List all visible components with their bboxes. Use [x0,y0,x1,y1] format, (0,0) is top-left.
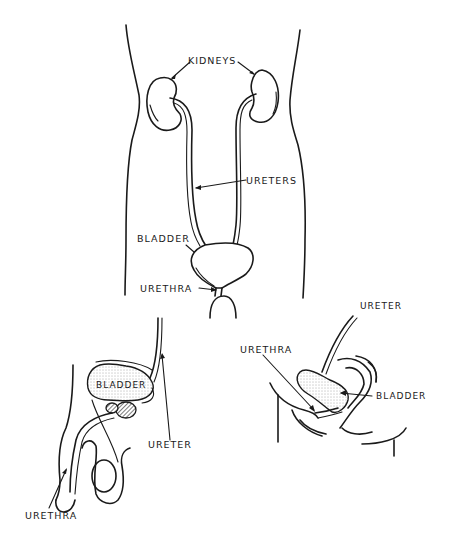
male-ureter-leader [162,355,170,440]
bladder-leader [186,245,194,252]
ureters-label: URETERS [246,176,297,186]
female-ureter [322,316,353,372]
female-bladder [297,370,348,412]
male-scrotum [82,441,130,503]
female-urethra-label: URETHRA [240,345,292,355]
right-kidney [250,70,279,122]
front-urethra-label: URETHRA [140,284,192,294]
torso-right-outline [290,30,305,298]
female-bladder-label: BLADDER [376,392,426,401]
male-gland [106,403,118,413]
front-bladder-label: BLADDER [137,234,190,244]
male-prostate [116,402,136,418]
female-side-view-panel [263,316,406,456]
male-ureter-label: URETER [148,440,192,450]
male-urethra-label: URETHRA [25,511,77,521]
front-bladder [191,243,253,288]
crotch-outline [210,296,236,318]
torso-left-outline [125,25,139,295]
diagram-illustration [0,0,451,551]
male-urethra-leader [49,470,66,508]
urinary-system-diagram: KIDNEYS URETERS BLADDER URETHRA BLADDER … [0,0,451,551]
kidneys-label: KIDNEYS [188,56,236,66]
ureters-arrow [196,180,246,188]
male-side-view-panel [49,318,170,512]
male-bladder-label: BLADDER [96,381,146,390]
female-ureter-label: URETER [360,302,402,311]
front-view-panel [125,25,305,318]
